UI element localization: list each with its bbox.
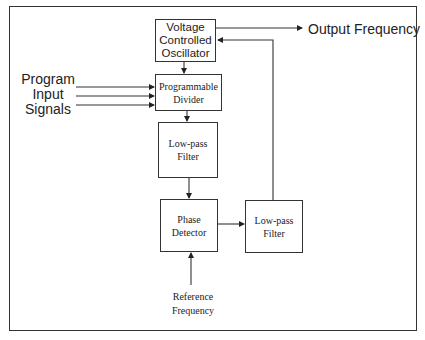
vco-label-line-3: Oscillator	[162, 47, 210, 60]
vco-block: Voltage Controlled Oscillator	[155, 19, 216, 62]
program-input-signals-label: Program Input Signals	[14, 72, 82, 117]
feedback-arrow	[218, 40, 273, 200]
lpf-right-label-line-1: Low-pass	[255, 214, 294, 227]
low-pass-filter-block-right: Low-pass Filter	[245, 200, 303, 253]
lpf-right-label-line-2: Filter	[263, 227, 285, 240]
pd-label-line-2: Detector	[172, 226, 206, 239]
reference-label-line-1: Reference	[158, 290, 228, 304]
pd-label-line-1: Phase	[177, 213, 200, 226]
program-label-line-2: Input	[14, 87, 82, 102]
reference-label-line-2: Frequency	[158, 304, 228, 318]
low-pass-filter-block-left: Low-pass Filter	[158, 122, 218, 178]
program-label-line-3: Signals	[14, 102, 82, 117]
divider-label-line-2: Divider	[173, 93, 204, 106]
reference-frequency-label: Reference Frequency	[158, 290, 228, 318]
vco-label-line-2: Controlled	[159, 34, 211, 47]
vco-label-line-1: Voltage	[166, 21, 204, 34]
programmable-divider-block: Programmable Divider	[155, 74, 222, 111]
output-frequency-label: Output Frequency	[308, 21, 420, 37]
program-label-line-1: Program	[14, 72, 82, 87]
lpf-left-label-line-2: Filter	[177, 150, 199, 163]
phase-detector-block: Phase Detector	[160, 199, 218, 252]
divider-label-line-1: Programmable	[159, 80, 218, 93]
lpf-left-label-line-1: Low-pass	[169, 137, 208, 150]
